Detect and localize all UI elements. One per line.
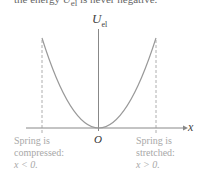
y-axis-subscript: el [101,20,107,29]
compressed-note-line2: compressed: [14,147,64,159]
compressed-note: Spring is compressed: x < 0. [14,135,64,171]
y-axis-label: Uel [92,11,107,29]
compressed-note-line3: x < 0. [14,159,64,171]
stretched-note-line3: x > 0. [136,159,175,171]
y-axis-symbol: U [92,11,101,26]
x-axis-label: x [188,120,193,135]
origin-label: O [94,133,102,145]
stretched-note-line2: stretched: [136,147,175,159]
compressed-note-line1: Spring is [14,135,64,147]
stretched-note-line1: Spring is [136,135,175,147]
stretched-note: Spring is stretched: x > 0. [136,135,175,171]
